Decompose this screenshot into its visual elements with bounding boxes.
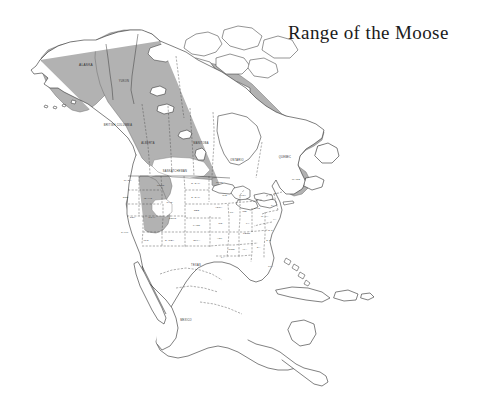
place-label-ga: GA. (257, 246, 262, 248)
place-label-maine: MAINE (292, 178, 300, 180)
place-label-n-mex: N. MEX. (165, 239, 175, 241)
newfoundland (315, 143, 339, 163)
place-label-la: LA. (221, 256, 225, 258)
place-label-s-c: S.C. (266, 239, 271, 241)
place-label-va: VA. (273, 218, 277, 220)
place-label-fla: FLA. (268, 265, 274, 267)
place-label-ky: KY. (246, 222, 250, 224)
place-label-miss: MISS. (228, 248, 235, 250)
place-label-alberta: ALBERTA (141, 141, 154, 145)
place-label-saskatchewan: SASKATCHEWAN (163, 169, 187, 173)
place-label-n-y: N.Y. (275, 192, 280, 194)
baja-california (134, 262, 166, 324)
place-label-ill: ILL. (230, 211, 235, 213)
place-label-british-columbia: BRITISH COLUMBIA (104, 123, 133, 127)
place-label-wash: WASH. (124, 179, 132, 181)
place-label-mont: MONT. (157, 184, 165, 186)
place-label-n-c: N.C. (268, 229, 274, 231)
place-label-ind: IND. (242, 210, 248, 212)
place-label-texas: TEXAS (191, 263, 201, 267)
place-label-alaska: ALASKA (79, 63, 94, 67)
yucatan-peninsula (288, 320, 316, 346)
place-label-n-dak: N. DAK. (191, 182, 201, 184)
place-label-s-dak: S. DAK. (191, 196, 201, 198)
page-title: Range of the Moose (288, 22, 449, 44)
place-label-pa: PA. (271, 204, 275, 206)
place-label-wyo: WYO. (167, 201, 174, 203)
place-label-nev: NEV. (130, 216, 136, 218)
caribbean-islands (276, 258, 374, 302)
place-label-wis: WIS. (222, 194, 228, 196)
north-america-map: ALASKAYUKONBRITISH COLUMBIAALBERTAMANITO… (0, 0, 479, 415)
place-label-ohio: OHIO (254, 207, 261, 209)
long-island (283, 201, 294, 205)
place-label-neb: NEB. (194, 209, 200, 211)
place-label-quebec: QUEBEC (279, 155, 291, 159)
place-label-w-va: W. VA. (261, 215, 269, 217)
place-label-mo: MO. (219, 222, 224, 224)
place-label-okla: OKLA. (193, 239, 201, 241)
place-label-calif: CALIF. (121, 231, 129, 233)
place-label-kans: KANS. (193, 224, 201, 226)
place-label-minn: MINN. (216, 181, 224, 183)
range-map-figure: Range of the Moose (0, 0, 479, 415)
place-label-mexico: MEXICO (180, 318, 192, 322)
place-label-utah: UTAH (149, 216, 156, 218)
place-label-mich: MICH. (239, 194, 247, 196)
place-label-ontario: ONTARIO (230, 158, 243, 162)
place-label-ark: ARK. (217, 237, 223, 239)
place-label-ariz: ARIZ. (143, 239, 150, 241)
place-label-colo: COLO. (169, 217, 177, 219)
place-label-ore: ORE. (123, 196, 129, 198)
place-label-ala: ALA. (242, 248, 248, 250)
place-label-iowa: IOWA (216, 206, 223, 208)
place-label-manitoba: MANITOBA (193, 141, 209, 145)
place-label-idaho: IDAHO (144, 197, 152, 199)
place-label-tenn: TENN. (243, 232, 251, 234)
place-label-yukon: YUKON (119, 79, 129, 83)
